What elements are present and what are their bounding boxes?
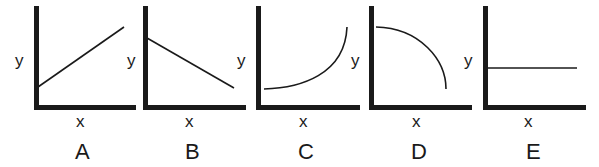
panel-d-curve-concave-down [376,27,446,89]
panel-d-graph [372,6,473,108]
panel-e-graph [486,6,587,108]
panel-e-x-label: x [524,113,533,130]
panel-b-x-label: x [185,113,194,130]
panel-a-y-label: y [15,52,24,69]
panel-c-caption: C [298,141,314,163]
panel-e-axes [486,6,587,108]
panel-c-graph [259,6,361,108]
panel-d-y-label: y [351,52,360,69]
panel-b-line-decreasing [147,38,234,88]
panel-a-axes [37,6,137,108]
panel-a-graph [37,6,137,108]
panel-c-curve-concave-up [264,27,347,89]
panel-a-x-label: x [76,113,85,130]
panel-d-caption: D [411,141,427,163]
panel-d-x-label: x [412,113,421,130]
panel-b-caption: B [185,141,200,163]
panel-c-y-label: y [237,52,246,69]
panel-b-graph [146,6,247,108]
panel-b-y-label: y [127,52,136,69]
panel-c-x-label: x [299,113,308,130]
panel-d-axes [372,6,473,108]
panel-a-line-increasing [38,27,124,87]
panel-c-axes [259,6,361,108]
panel-e-caption: E [526,141,541,163]
panel-b-axes [146,6,247,108]
panel-e-y-label: y [464,52,473,69]
panel-a-caption: A [75,141,90,163]
